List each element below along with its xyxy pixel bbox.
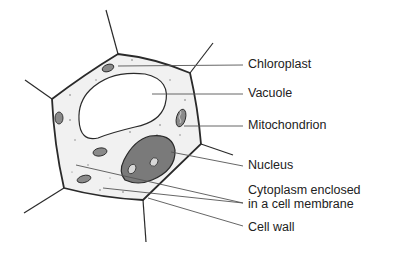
label-cytoplasm: Cytoplasm enclosed — [248, 183, 361, 197]
label-vacuole: Vacuole — [248, 86, 292, 100]
label-chloroplast: Chloroplast — [248, 57, 311, 71]
label-cell-wall: Cell wall — [248, 220, 295, 234]
plant-cell-diagram — [0, 0, 411, 261]
label-mitochondrion: Mitochondrion — [248, 118, 327, 132]
label-nucleus: Nucleus — [248, 158, 293, 172]
label-cytoplasm-continued: in a cell membrane — [248, 197, 354, 211]
